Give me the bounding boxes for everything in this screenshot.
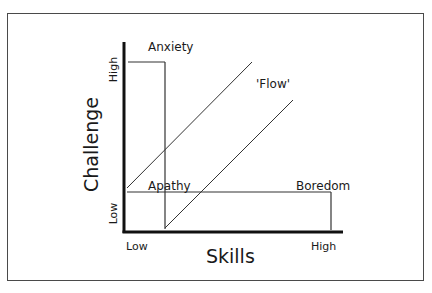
y-axis-high-label: High	[108, 50, 119, 90]
flow-lower-line	[165, 100, 293, 228]
x-axis-high-label: High	[311, 241, 336, 252]
x-axis-low-label: Low	[126, 241, 148, 252]
flow-upper-line	[127, 62, 252, 188]
boredom-label: Boredom	[296, 180, 350, 192]
apathy-label: Apathy	[148, 180, 191, 192]
y-axis-low-label: Low	[108, 194, 119, 234]
x-axis-title: Skills	[206, 247, 255, 266]
flow-label: 'Flow'	[256, 78, 290, 90]
anxiety-label: Anxiety	[148, 41, 193, 53]
y-axis-title: Challenge	[82, 95, 101, 195]
